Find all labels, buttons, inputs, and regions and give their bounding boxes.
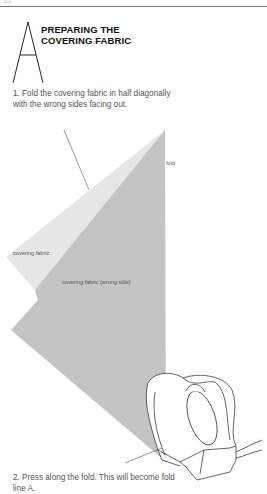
fold-label: fold — [166, 160, 175, 166]
covering-fabric-wrong-side-shape — [11, 130, 166, 462]
covering-fabric-label: covering fabric — [13, 250, 49, 256]
covering-fabric-wrong-side-label: covering fabric (wrong side) — [62, 279, 131, 285]
step-2-text: 2. Press along the fold. This will becom… — [13, 472, 183, 494]
iron-leader-line — [125, 448, 162, 463]
leader-line — [64, 130, 89, 190]
iron-icon — [146, 373, 262, 480]
